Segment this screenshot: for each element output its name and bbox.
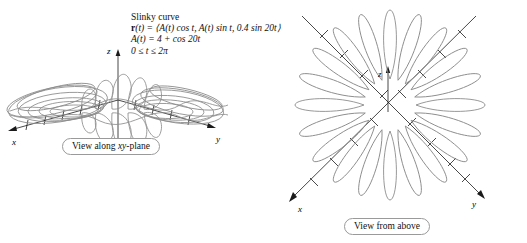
right-plot-x-label: x — [297, 204, 302, 214]
left-plot-x-axis — [8, 100, 118, 131]
left-plot-z-label: z — [106, 46, 111, 56]
caption-right-text: View from above — [354, 221, 420, 231]
caption-view-from-above: View from above — [344, 218, 430, 235]
right-plot-x-axis — [289, 16, 476, 202]
left-plot-x-label: x — [11, 137, 16, 147]
caption-view-along-xy-plane: View along xy-plane — [62, 138, 160, 155]
left-plot-y-label: y — [215, 134, 220, 144]
right-plot-y-label: y — [471, 199, 476, 209]
right-plot-z-label: z — [377, 69, 382, 79]
left-plot-curve — [4, 74, 228, 147]
right-plot-canvas: x y z — [280, 0, 527, 215]
figure-title: Slinky curve — [131, 12, 281, 23]
slinky-curve-figure: Slinky curve r(t) = ⟨A(t) cos t, A(t) si… — [0, 0, 527, 243]
right-plot-y-axis — [302, 16, 485, 199]
right-plot-curve — [295, 10, 485, 200]
caption-left-text: View along xy-plane — [72, 141, 150, 151]
